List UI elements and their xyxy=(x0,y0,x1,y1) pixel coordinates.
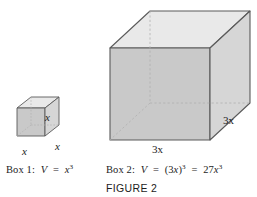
box2-caption: Box 2: V = (3x)3 = 27x3 xyxy=(106,165,222,176)
box2-expr1-exponent: 3 xyxy=(182,163,186,171)
figure-container: x x x 3x 3x Box 1: V = x3 Box 2: V = (3x… xyxy=(0,0,257,197)
box2-expr2-coef: 27 xyxy=(203,164,214,175)
box1-caption-equals: = xyxy=(53,164,59,175)
box1-width-label: x xyxy=(22,146,27,157)
box2-front-face xyxy=(110,48,210,140)
box1-caption-prefix: Box 1: xyxy=(6,164,35,175)
box2-caption-equals-2: = xyxy=(191,164,197,175)
box2-depth-label: 3x xyxy=(223,115,234,126)
box1-expr-exponent: 3 xyxy=(69,163,73,171)
box2-caption-equals-1: = xyxy=(153,164,159,175)
box2-expr1-open: (3 xyxy=(165,164,174,175)
box1-front-face xyxy=(17,108,45,136)
box2-caption-prefix: Box 2: xyxy=(106,164,135,175)
box1-caption: Box 1: V = x3 xyxy=(6,165,73,176)
box1-depth-label: x xyxy=(55,141,60,152)
box1-height-label: x xyxy=(45,112,50,123)
box1-volume-symbol: V xyxy=(41,164,48,175)
box2-expr2-exponent: 3 xyxy=(219,163,223,171)
box2-volume-symbol: V xyxy=(141,164,148,175)
figure-number-label: FIGURE 2 xyxy=(106,183,157,194)
box1-cube xyxy=(17,97,59,136)
box2-width-label: 3x xyxy=(152,144,163,155)
